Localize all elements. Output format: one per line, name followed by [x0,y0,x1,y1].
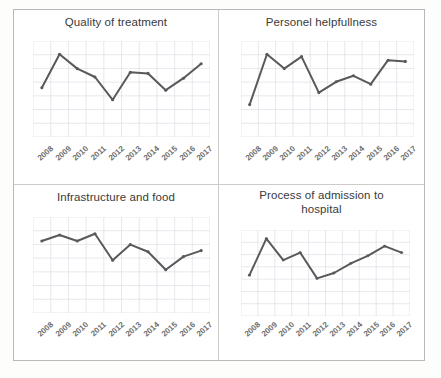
panel-title-line: Process of admission to [219,188,424,202]
line-chart-svg [33,217,210,313]
data-point-marker [282,259,285,262]
x-tick-label: 2011 [89,144,108,162]
x-tick-label: 2017 [195,144,214,163]
x-tick-label: 2011 [296,144,315,162]
x-tick-label: 2012 [106,320,125,339]
x-tick-label: 2010 [277,320,296,339]
data-point-marker [366,254,369,257]
data-point-marker [248,103,251,106]
data-point-marker [283,67,286,70]
x-tick-label: 2013 [124,144,143,163]
data-point-marker [200,249,203,252]
data-point-marker [164,89,167,92]
line-chart-svg [33,41,210,137]
data-point-marker [369,83,372,86]
plot-area-personel-helpfullness [241,41,414,137]
data-point-marker [146,72,149,75]
x-tick-label: 2012 [313,144,332,163]
data-point-marker [248,274,251,277]
x-tick-label: 2010 [71,320,90,339]
x-tick-label: 2014 [142,320,161,339]
data-point-marker [400,251,403,254]
x-tick-label: 2009 [261,144,280,163]
x-tick-label: 2013 [327,320,346,339]
x-tick-label: 2014 [344,320,363,339]
plot-area-quality-of-treatment [33,41,210,137]
x-axis-tick-labels: 2008200920102011201220132014201520162017 [33,314,210,356]
panel-title: Quality of treatment [14,15,218,29]
data-point-marker [349,262,352,265]
x-tick-label: 2008 [243,144,262,163]
x-tick-label: 2010 [71,144,90,163]
data-point-marker [352,74,355,77]
x-tick-label: 2016 [177,144,196,163]
data-point-marker [265,53,268,56]
x-tick-label: 2009 [260,320,279,339]
x-tick-label: 2017 [395,320,414,339]
panel-title: Infrastructure and food [14,190,218,204]
data-point-marker [58,53,61,56]
data-point-marker [93,232,96,235]
x-axis-tick-labels: 2008200920102011201220132014201520162017 [241,314,410,356]
data-point-marker [387,59,390,62]
panel-title: Process of admission tohospital [219,188,424,216]
data-point-marker [58,233,61,236]
data-point-marker [164,268,167,271]
data-point-marker [317,91,320,94]
data-point-marker [332,272,335,275]
panel-title: Personel helpfullness [219,15,424,29]
data-point-marker [265,237,268,240]
chart-panel-process-of-admission-to-hospital: Process of admission tohospital 20082009… [219,185,424,360]
line-chart-svg [241,41,414,137]
x-tick-label: 2013 [330,144,349,163]
panel-grid: Quality of treatment 2008200920102011201… [14,10,424,360]
data-point-marker [182,255,185,258]
x-tick-label: 2008 [36,144,55,163]
data-point-marker [40,239,43,242]
x-tick-label: 2011 [89,320,108,338]
x-tick-label: 2014 [142,144,161,163]
x-tick-label: 2009 [53,144,72,163]
x-tick-label: 2011 [294,320,313,338]
x-tick-label: 2014 [347,144,366,163]
line-chart-svg [241,230,410,316]
x-tick-label: 2017 [399,144,418,163]
x-tick-label: 2013 [124,320,143,339]
plot-area-infrastructure-and-food [33,217,210,313]
data-point-marker [200,62,203,65]
chart-panel-infrastructure-and-food: Infrastructure and food 2008200920102011… [14,185,219,360]
x-tick-label: 2015 [364,144,383,163]
x-tick-label: 2017 [195,320,214,339]
data-point-marker [182,77,185,80]
data-point-marker [146,250,149,253]
data-point-marker [404,60,407,63]
x-tick-label: 2010 [278,144,297,163]
x-tick-label: 2009 [53,320,72,339]
x-tick-label: 2015 [160,144,179,163]
data-point-marker [111,259,114,262]
x-tick-label: 2015 [361,320,380,339]
plot-area-process-of-admission-to-hospital [241,230,410,316]
data-point-marker [129,243,132,246]
data-point-marker [76,239,79,242]
data-point-marker [111,98,114,101]
x-axis-tick-labels: 2008200920102011201220132014201520162017 [33,138,210,180]
x-tick-label: 2016 [177,320,196,339]
data-point-marker [40,86,43,89]
x-tick-label: 2016 [378,320,397,339]
x-tick-label: 2015 [160,320,179,339]
data-point-marker [93,75,96,78]
data-point-marker [300,55,303,58]
data-point-marker [76,67,79,70]
page-background: Quality of treatment 2008200920102011201… [0,0,441,378]
x-axis-tick-labels: 2008200920102011201220132014201520162017 [241,138,414,180]
data-point-marker [316,277,319,280]
x-tick-label: 2016 [382,144,401,163]
x-tick-label: 2012 [106,144,125,163]
data-point-marker [335,80,338,83]
data-point-marker [129,71,132,74]
x-tick-label: 2008 [36,320,55,339]
chart-panel-quality-of-treatment: Quality of treatment 2008200920102011201… [14,10,219,185]
x-tick-label: 2012 [311,320,330,339]
data-point-marker [383,245,386,248]
